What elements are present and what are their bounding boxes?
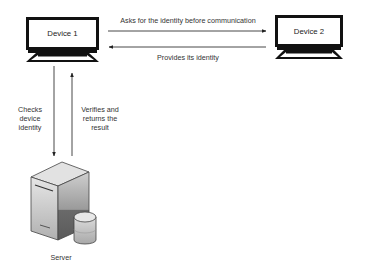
server-icon (31, 162, 96, 244)
edge-label-verify-result: Verifies and returns the result (76, 105, 124, 132)
edge-label-check-identity: Checks device identity (10, 105, 50, 132)
label-line: returns the (76, 114, 124, 123)
label-line: identity (10, 123, 50, 132)
device1-label: Device 1 (26, 29, 99, 38)
edge-label-ask-identity: Asks for the identity before communicati… (110, 16, 266, 25)
label-line: Verifies and (76, 105, 124, 114)
device1-monitor-icon (26, 17, 99, 62)
server-label: Server (36, 253, 86, 262)
edge-label-provide-identity: Provides its identity (110, 53, 266, 62)
label-line: device (10, 114, 50, 123)
label-line: Checks (10, 105, 50, 114)
label-line: result (76, 123, 124, 132)
device2-label: Device 2 (275, 27, 343, 36)
device2-monitor-icon (275, 15, 343, 59)
diagram-canvas (0, 0, 365, 270)
